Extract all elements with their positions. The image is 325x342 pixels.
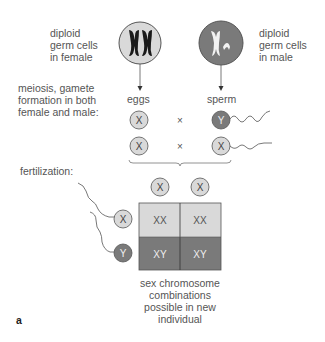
cross-symbol: × bbox=[177, 141, 183, 152]
svg-text:Y: Y bbox=[120, 248, 127, 259]
svg-text:XY: XY bbox=[193, 249, 207, 260]
svg-text:XX: XX bbox=[153, 215, 167, 226]
cross-symbol: × bbox=[177, 115, 183, 126]
male-germ-cell bbox=[199, 21, 243, 65]
egg-x-1: X bbox=[130, 111, 148, 129]
sperm-x: X bbox=[212, 137, 272, 155]
egg-x-2: X bbox=[130, 137, 148, 155]
svg-text:X: X bbox=[120, 214, 127, 225]
punnett-top-x-1: X bbox=[151, 178, 169, 196]
punnett-side-x: X bbox=[114, 210, 132, 228]
svg-text:XY: XY bbox=[153, 249, 167, 260]
svg-text:X: X bbox=[136, 141, 143, 152]
svg-text:X: X bbox=[157, 182, 164, 193]
female-germ-cell bbox=[119, 22, 161, 64]
svg-text:X: X bbox=[136, 115, 143, 126]
svg-text:Y: Y bbox=[218, 115, 225, 126]
sperm-y: Y bbox=[212, 111, 270, 129]
punnett-top-x-2: X bbox=[191, 178, 209, 196]
svg-text:XX: XX bbox=[193, 215, 207, 226]
diagram-graphics: X × Y X × X X X X Y bbox=[0, 0, 325, 342]
svg-text:X: X bbox=[218, 141, 225, 152]
punnett-grid: XX XX XY XY bbox=[139, 203, 221, 270]
svg-text:X: X bbox=[197, 182, 204, 193]
brace bbox=[129, 160, 231, 166]
punnett-side-y: Y bbox=[114, 244, 132, 262]
